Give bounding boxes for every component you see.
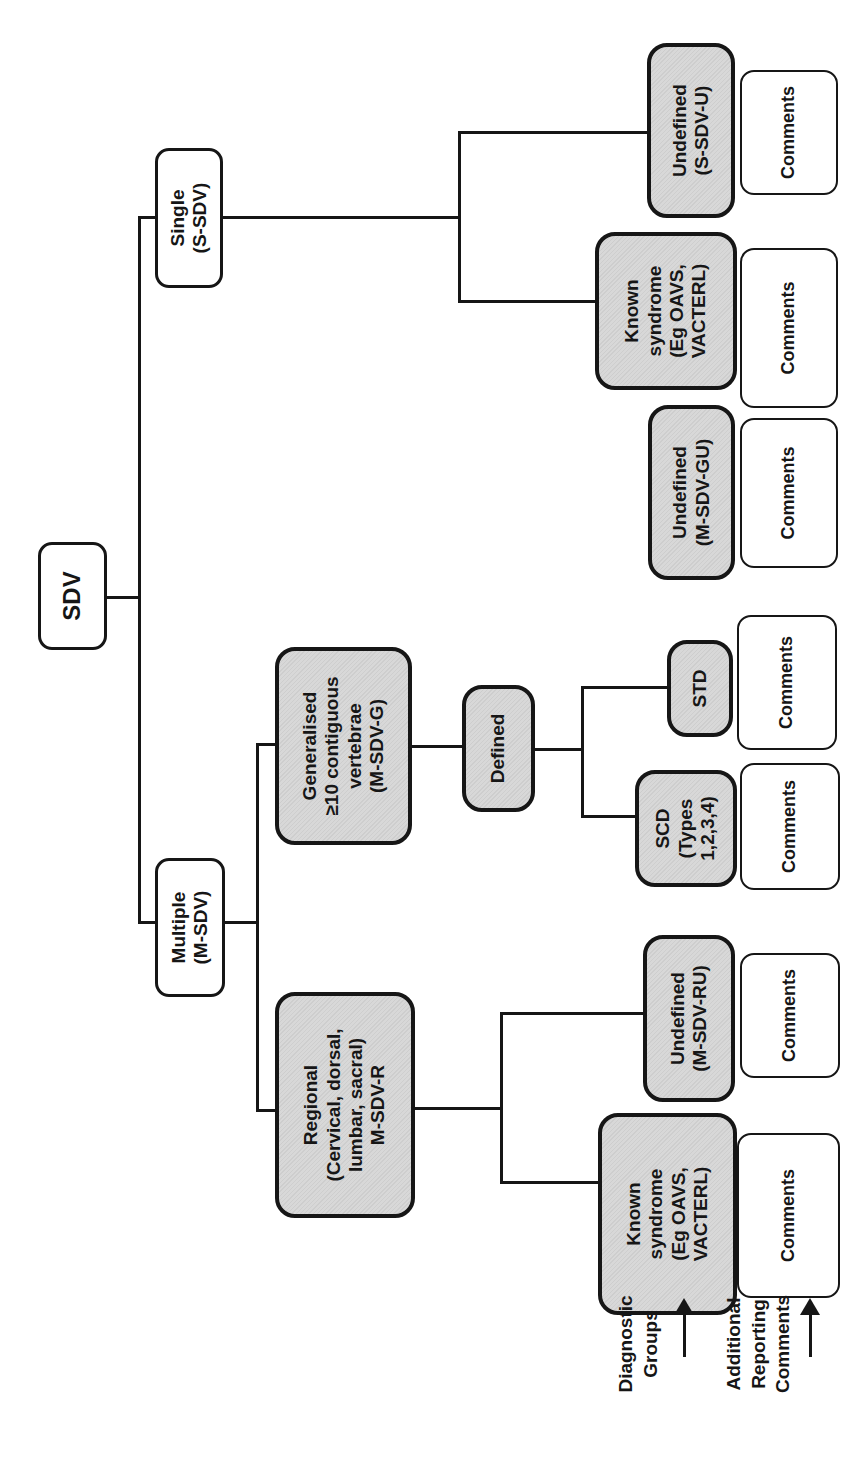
- connector-single-stem: [221, 216, 461, 219]
- connector-drop-regional: [256, 1109, 277, 1112]
- connector-regional-stem: [413, 1107, 503, 1110]
- arrow-head: [800, 1298, 820, 1315]
- node-defined: Defined: [462, 685, 535, 812]
- comments-box-std: Comments: [737, 615, 837, 750]
- node-undefined-m-sdv-gu: Undefined (M-SDV-GU): [648, 405, 735, 580]
- connector-root-stem: [107, 596, 141, 599]
- connector-multiple-bar: [256, 743, 259, 1112]
- rotated-flowchart: SDV Single (S-SDV) Multiple (M-SDV) Regi…: [0, 0, 861, 1461]
- node-sdv: SDV: [38, 542, 107, 650]
- node-generalised-m-sdv-g: Generalised ≥10 contiguous vertebrae (M-…: [275, 647, 412, 845]
- connector-drop-undefined-single: [458, 131, 649, 134]
- connector-drop-undefined-regional: [500, 1012, 645, 1015]
- node-single-s-sdv: Single (S-SDV): [155, 148, 223, 288]
- node-known-syndrome-single: Known syndrome (Eg OAVS, VACTERL): [595, 232, 737, 390]
- node-scd: SCD (Types 1,2,3,4): [635, 770, 737, 887]
- connector-defined-bar: [581, 686, 584, 818]
- node-regional-m-sdv-r: Regional (Cervical, dorsal, lumbar, sacr…: [275, 992, 415, 1218]
- connector-defined-stem: [533, 748, 584, 751]
- connector-single-bar: [458, 131, 461, 303]
- comments-box-known-syndrome-single: Comments: [740, 248, 838, 408]
- additional-reporting-comments-label: Additional Reporting Comments: [722, 1255, 796, 1433]
- connector-drop-generalised: [256, 743, 277, 746]
- connector-drop-single: [138, 216, 156, 219]
- connector-drop-std: [581, 686, 670, 689]
- comments-box-scd: Comments: [740, 763, 840, 890]
- right-arrow-icon-additional: [800, 1295, 820, 1357]
- connector-multiple-stem: [223, 921, 259, 924]
- node-undefined-s-sdv-u: Undefined (S-SDV-U): [647, 43, 735, 218]
- arrow-head: [674, 1298, 694, 1315]
- arrow-shaft: [683, 1311, 686, 1357]
- figure-canvas: SDV Single (S-SDV) Multiple (M-SDV) Regi…: [0, 0, 861, 1461]
- arrow-shaft: [809, 1311, 812, 1357]
- connector-drop-known-syndrome-single: [458, 300, 597, 303]
- connector-regional-bar: [500, 1012, 503, 1184]
- connector-generalised-defined: [410, 745, 464, 748]
- connector-drop-scd: [581, 815, 637, 818]
- right-arrow-icon-diagnostic: [674, 1295, 694, 1357]
- node-multiple-m-sdv: Multiple (M-SDV): [155, 858, 225, 997]
- diagnostic-groups-label: Diagnostic Groups: [614, 1255, 663, 1433]
- node-std: STD: [667, 640, 733, 737]
- connector-drop-multiple: [138, 921, 156, 924]
- connector-drop-known-syndrome-regional: [500, 1181, 600, 1184]
- comments-box-undefined-m-sdv-ru: Comments: [740, 953, 840, 1078]
- node-undefined-m-sdv-ru: Undefined (M-SDV-RU): [643, 935, 735, 1102]
- comments-box-undefined-s-sdv-u: Comments: [740, 70, 838, 195]
- comments-box-undefined-m-sdv-gu: Comments: [740, 418, 838, 568]
- connector-level1-bar: [138, 216, 141, 924]
